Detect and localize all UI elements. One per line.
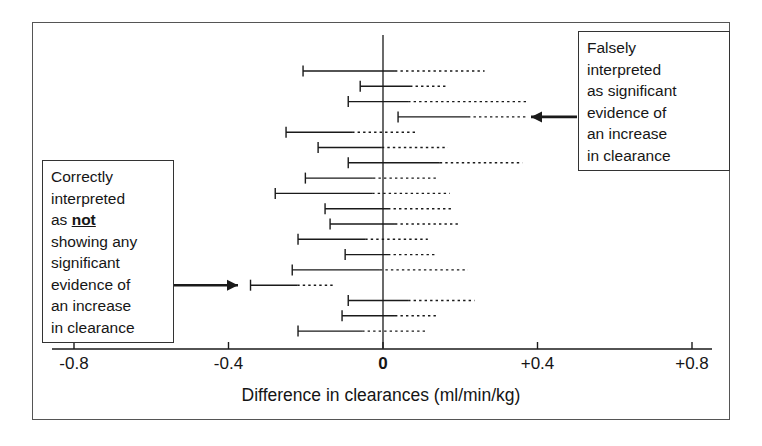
x-axis-tick-label: -0.4 xyxy=(214,354,243,374)
confidence-interval-row xyxy=(303,66,485,77)
confidence-interval-row xyxy=(251,280,336,291)
confidence-interval-row xyxy=(286,127,418,138)
forest-plot-figure: -0.8-0.40+0.4+0.8 Difference in clearanc… xyxy=(0,0,762,446)
x-axis-tick-label: +0.4 xyxy=(521,354,555,374)
confidence-interval-rows xyxy=(251,66,527,337)
callout-left-line-4: significant xyxy=(51,252,165,274)
correctly-interpreted-callout: Correctly interpreted as not showing any… xyxy=(42,160,174,343)
x-axis-title: Difference in clearances (ml/min/kg) xyxy=(0,385,762,406)
callout-left-as-word: as xyxy=(51,211,72,228)
callout-left-line-5: evidence of xyxy=(51,274,165,296)
falsely-interpreted-callout: Falsely interpreted as significant evide… xyxy=(578,31,730,171)
x-axis-tick-label: -0.8 xyxy=(59,354,88,374)
callout-left-line-0: Correctly xyxy=(51,166,165,188)
x-axis xyxy=(52,342,712,349)
confidence-interval-row xyxy=(342,310,438,321)
callout-right-line-0: Falsely xyxy=(587,37,721,59)
callout-arrows xyxy=(174,111,577,290)
arrow-head xyxy=(227,280,238,291)
x-axis-tick-label: 0 xyxy=(378,354,387,374)
callout-right-line-3: evidence of xyxy=(587,102,721,124)
arrow-head xyxy=(531,111,542,122)
callout-left-line-1: interpreted xyxy=(51,188,165,210)
callout-right-line-5: in clearance xyxy=(587,145,721,167)
callout-left-line-7: in clearance xyxy=(51,317,165,339)
callout-right-line-2: as significant xyxy=(587,80,721,102)
confidence-interval-row xyxy=(360,81,448,92)
confidence-interval-row xyxy=(348,157,522,168)
confidence-interval-row xyxy=(325,203,452,214)
confidence-interval-row xyxy=(298,326,428,337)
x-axis-tick-label: +0.8 xyxy=(675,354,709,374)
callout-right-line-4: an increase xyxy=(587,123,721,145)
confidence-interval-row xyxy=(275,188,450,199)
confidence-interval-row xyxy=(345,249,435,260)
callout-right-line-1: interpreted xyxy=(587,59,721,81)
confidence-interval-row xyxy=(305,173,436,184)
confidence-interval-row xyxy=(292,264,468,275)
callout-left-emphasis-not: not xyxy=(72,211,96,228)
callout-left-line-3: showing any xyxy=(51,231,165,253)
confidence-interval-row xyxy=(298,234,428,245)
correctly-interpreted-arrow xyxy=(174,280,238,291)
confidence-interval-row xyxy=(330,219,458,230)
callout-left-line-2: as not xyxy=(51,209,165,231)
falsely-interpreted-arrow xyxy=(531,111,577,122)
callout-left-line-6: an increase xyxy=(51,295,165,317)
confidence-interval-row xyxy=(348,96,526,107)
confidence-interval-row xyxy=(398,111,527,122)
confidence-interval-row xyxy=(348,295,474,306)
